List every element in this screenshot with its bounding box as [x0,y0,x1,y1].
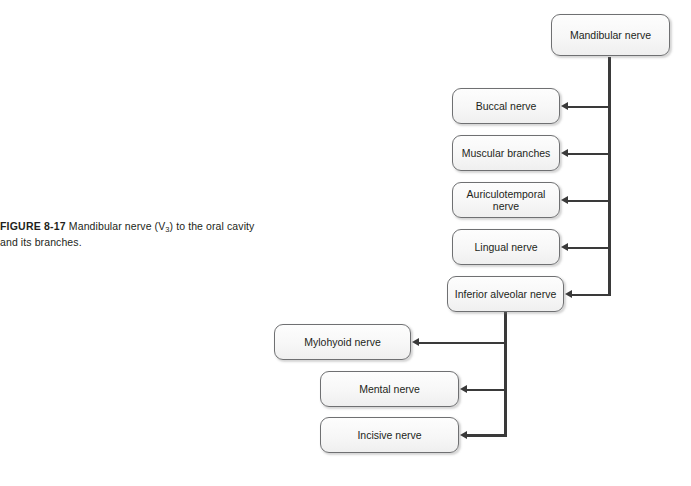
node-label: Lingual nerve [474,241,537,254]
node-label: Muscular branches [462,147,551,160]
node-auriculotemporal-nerve[interactable]: Auriculotemporal nerve [452,182,560,218]
node-label: Buccal nerve [476,100,537,113]
node-inferior-alveolar-nerve[interactable]: Inferior alveolar nerve [447,276,564,312]
edge-line-buccal [568,106,610,109]
edge-line-lingual [568,247,610,250]
node-mental-nerve[interactable]: Mental nerve [320,371,459,407]
edge-line-mental [467,389,506,392]
edge-arrow-auriculotemporal [561,196,568,204]
node-label: Mental nerve [359,383,420,396]
mandibular-nerve-flowchart: Mandibular nerve Buccal nerve Muscular b… [0,0,691,486]
edge-arrow-mylohyoid [412,338,419,346]
node-incisive-nerve[interactable]: Incisive nerve [320,417,459,453]
edge-line-incisive [467,434,507,437]
node-muscular-branches[interactable]: Muscular branches [452,135,560,171]
edge-arrow-muscular [561,149,568,157]
node-mandibular-nerve[interactable]: Mandibular nerve [551,14,670,56]
edge-line-mylohyoid [419,342,506,345]
node-lingual-nerve[interactable]: Lingual nerve [452,229,560,265]
edge-arrow-buccal [561,102,568,110]
edge-arrow-lingual [561,243,568,251]
node-label: Mandibular nerve [570,29,651,42]
node-mylohyoid-nerve[interactable]: Mylohyoid nerve [274,324,411,360]
edge-arrow-mental [460,385,467,393]
node-label: Incisive nerve [357,429,421,442]
edge-arrow-incisive [460,431,467,439]
node-label: Mylohyoid nerve [304,336,380,349]
node-label: Inferior alveolar nerve [455,288,557,301]
trunk-line-main [608,57,611,296]
edge-line-auriculotemporal [568,200,610,203]
node-buccal-nerve[interactable]: Buccal nerve [452,88,560,124]
node-label: Auriculotemporal nerve [457,188,555,213]
edge-arrow-inferior-alveolar [565,290,572,298]
trunk-line-inferior-alveolar [504,312,507,436]
edge-line-muscular [568,153,610,156]
edge-line-inferior-alveolar [572,294,611,297]
